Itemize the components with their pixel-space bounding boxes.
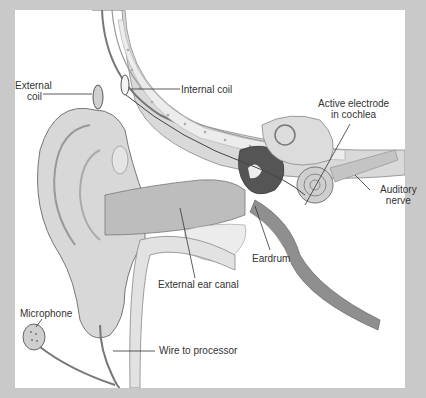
cartilage-oval [112,146,128,174]
label-external-ear-canal: External ear canal [158,279,239,290]
label-auditory-nerve: Auditory nerve [380,184,417,206]
label-eardrum: Eardrum [252,253,290,264]
label-microphone: Microphone [20,308,72,319]
neck-skin [130,236,235,388]
label-internal-coil: Internal coil [181,84,232,95]
microphone-device [23,324,45,350]
internal-coil-device [121,75,129,95]
eustachian-tube [250,200,380,330]
external-coil-device [93,85,103,109]
diagram-panel [15,10,405,388]
cochlea [297,167,333,203]
label-wire-to-processor: Wire to processor [159,345,237,356]
label-active-electrode: Active electrode in cochlea [318,98,389,120]
label-external-coil: External coil [15,80,52,102]
ear-illustration [15,10,405,388]
